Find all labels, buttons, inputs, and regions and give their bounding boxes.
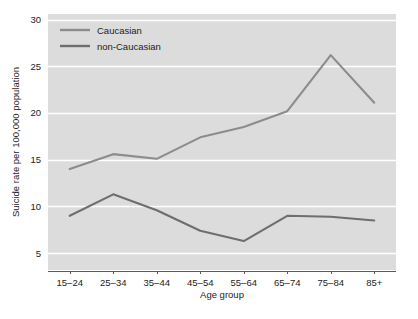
chart-container: 51015202530 15–2425–3435–4445–5455–6465–… [0, 0, 418, 319]
y-axis-title: Suicide rate per 100,000 population [10, 67, 21, 217]
x-axis-title: Age group [200, 289, 244, 300]
legend-label-caucasian: Caucasian [97, 25, 142, 36]
y-tick-label: 5 [36, 248, 41, 259]
x-tick-label: 55–64 [231, 277, 257, 288]
y-tick-label: 25 [30, 61, 41, 72]
y-tick-label: 10 [30, 201, 41, 212]
y-tick-label: 30 [30, 14, 41, 25]
x-tick-label: 35–44 [144, 277, 170, 288]
x-tick-label: 15–24 [57, 277, 83, 288]
x-tick-label: 75–84 [318, 277, 344, 288]
line-chart: 51015202530 15–2425–3435–4445–5455–6465–… [0, 0, 418, 319]
x-tick-label: 65–74 [274, 277, 300, 288]
legend-label-non-caucasian: non-Caucasian [97, 41, 161, 52]
y-tick-label: 20 [30, 107, 41, 118]
x-tick-label: 45–54 [187, 277, 213, 288]
x-tick-label: 85+ [366, 277, 383, 288]
plot-area-background [48, 14, 396, 270]
y-tick-label: 15 [30, 154, 41, 165]
x-tick-label: 25–34 [100, 277, 126, 288]
